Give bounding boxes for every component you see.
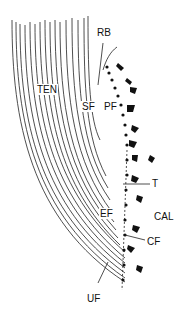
label-t: T	[151, 178, 159, 189]
label-uf: UF	[86, 293, 101, 304]
tendon-fiber-lines	[12, 16, 125, 282]
label-cf: CF	[146, 236, 161, 247]
tendon-enthesis-diagram	[0, 0, 184, 313]
label-sf: SF	[81, 101, 96, 112]
label-pf: PF	[103, 101, 118, 112]
label-ten: TEN	[36, 84, 58, 95]
label-rb: RB	[96, 27, 112, 38]
label-ef: EF	[99, 208, 114, 219]
label-cal: CAL	[153, 211, 174, 222]
